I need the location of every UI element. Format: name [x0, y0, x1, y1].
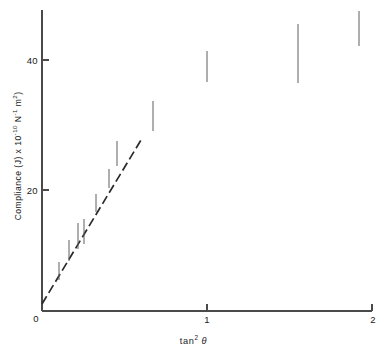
- x-tick-label-0: 0: [33, 313, 39, 324]
- x-axis-title: tan2θ: [0, 334, 387, 346]
- linear-fit-line: [42, 140, 141, 304]
- y-tick-label-20: 20: [27, 185, 38, 196]
- x-tick-label-1: 1: [204, 314, 210, 325]
- x-axis-title-exp: 2: [194, 334, 198, 341]
- x-axis-title-main: tan: [180, 336, 195, 346]
- compliance-chart-figure: 0 1 2 20 40 Compliance (J) x 10-10 N-1 m…: [0, 0, 387, 363]
- y-tick-label-40: 40: [27, 55, 38, 66]
- plot-area: 0 1 2 20 40: [0, 0, 387, 363]
- x-axis-title-variable: θ: [199, 336, 208, 346]
- x-tick-label-2: 2: [370, 314, 376, 325]
